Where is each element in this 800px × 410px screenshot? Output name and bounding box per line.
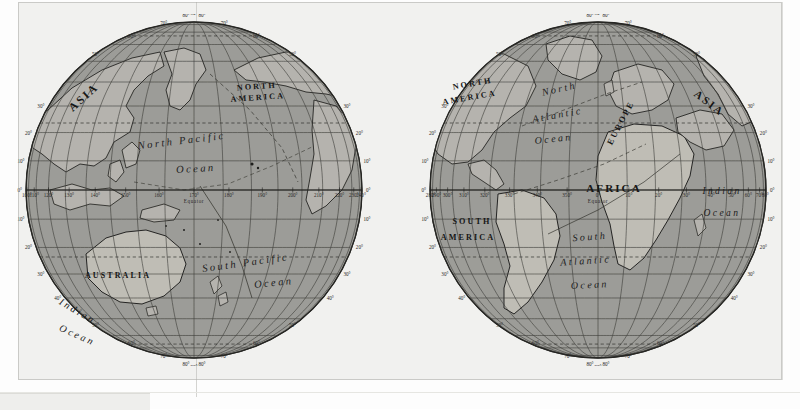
hemisphere-pacific[interactable]: ASIANORTHAMERICAAUSTRALIANorth PacificOc… xyxy=(14,14,374,366)
latitude-tick-right: 30° xyxy=(747,103,754,109)
longitude-tick: 240° xyxy=(356,192,366,198)
latitude-tick-right: 10° xyxy=(767,216,774,222)
polar-tick-top: 80° xyxy=(602,14,609,18)
polar-tick-bottom: 90° xyxy=(594,364,601,366)
longitude-tick: 20° xyxy=(655,192,662,198)
latitude-tick-right: 20° xyxy=(356,130,363,136)
polar-tick-top: 90° xyxy=(594,14,601,16)
latitude-tick-right: 10° xyxy=(363,216,370,222)
polar-tick-top: 80° xyxy=(182,14,189,18)
polar-tick-bottom: 80° xyxy=(586,361,593,366)
polar-tick-bottom: 60° xyxy=(532,340,539,346)
longitude-tick: 60° xyxy=(745,192,752,198)
polar-tick-bottom: 80° xyxy=(182,361,189,366)
latitude-tick-left: 0° xyxy=(421,187,426,193)
longitude-tick: 310° xyxy=(459,192,469,198)
latitude-tick-left: 0° xyxy=(17,187,22,193)
longitude-tick: 220° xyxy=(335,192,345,198)
polar-tick-bottom: 80° xyxy=(198,361,205,366)
latitude-tick-left: 30° xyxy=(441,271,448,277)
latitude-tick-left: 20° xyxy=(429,130,436,136)
polar-tick-bottom: 50° xyxy=(92,322,99,328)
polar-tick-bottom: 60° xyxy=(253,340,260,346)
latitude-tick-left: 30° xyxy=(37,271,44,277)
latitude-tick-right: 40° xyxy=(327,295,334,301)
longitude-tick: 10° xyxy=(625,192,632,198)
longitude-tick: 110° xyxy=(29,192,38,198)
island-dot xyxy=(229,251,231,253)
latitude-tick-left: 10° xyxy=(421,158,428,164)
longitude-tick: 80° xyxy=(762,192,769,198)
polar-tick-top: 70° xyxy=(221,20,228,26)
longitude-tick: 320° xyxy=(480,192,490,198)
latitude-tick-left: 20° xyxy=(25,244,32,250)
latitude-tick-left: 10° xyxy=(17,216,24,222)
polar-tick-top: 70° xyxy=(625,20,632,26)
polar-tick-top: 60° xyxy=(128,33,135,39)
continent-label: AUSTRALIA xyxy=(85,271,151,280)
polar-tick-bottom: 60° xyxy=(128,340,135,346)
latitude-tick-right: 20° xyxy=(356,244,363,250)
polar-tick-top: 60° xyxy=(532,33,539,39)
longitude-tick: 200° xyxy=(288,192,298,198)
longitude-tick: 40° xyxy=(708,192,715,198)
latitude-tick-left: 10° xyxy=(421,216,428,222)
island-dot xyxy=(183,229,185,231)
longitude-tick: 160° xyxy=(154,192,164,198)
longitude-tick: 30° xyxy=(683,192,690,198)
longitude-tick: 340° xyxy=(532,192,542,198)
paper-right-seam xyxy=(782,2,783,380)
latitude-tick-left: 10° xyxy=(17,158,24,164)
continent-label: AFRICA xyxy=(586,182,641,194)
latitude-tick-right: 20° xyxy=(760,130,767,136)
island-dot xyxy=(199,243,201,245)
longitude-tick: 290° xyxy=(432,192,442,198)
polar-tick-bottom: 70° xyxy=(221,353,228,359)
equator-label: Equator xyxy=(588,198,608,204)
ocean-label: Ocean xyxy=(176,162,216,175)
latitude-tick-left: 30° xyxy=(441,103,448,109)
polar-tick-top: 80° xyxy=(586,14,593,18)
longitude-tick: 130° xyxy=(64,192,74,198)
polar-tick-bottom: 70° xyxy=(564,353,571,359)
latitude-tick-right: 0° xyxy=(770,187,775,193)
polar-tick-top: 50° xyxy=(693,51,700,57)
latitude-tick-left: 40° xyxy=(54,295,61,301)
polar-tick-top: 70° xyxy=(160,20,167,26)
polar-tick-bottom: 50° xyxy=(289,322,296,328)
longitude-tick: 300° xyxy=(443,192,453,198)
latitude-tick-left: 20° xyxy=(429,244,436,250)
latitude-tick-right: 10° xyxy=(767,158,774,164)
continent-label: SOUTH xyxy=(452,217,491,226)
longitude-tick: 210° xyxy=(314,192,324,198)
continent-label: AMERICA xyxy=(441,233,496,242)
polar-tick-bottom: 80° xyxy=(602,361,609,366)
latitude-tick-right: 30° xyxy=(747,271,754,277)
ocean-label: Ocean xyxy=(571,278,610,291)
longitude-tick: 190° xyxy=(257,192,267,198)
polar-tick-top: 60° xyxy=(657,33,664,39)
polar-tick-top: 50° xyxy=(92,51,99,57)
polar-tick-top: 70° xyxy=(564,20,571,26)
hemisphere-atlantic[interactable]: NORTHAMERICASOUTHAMERICAEUROPEAFRICAASIA… xyxy=(418,14,778,366)
polar-tick-top: 80° xyxy=(198,14,205,18)
latitude-tick-left: 40° xyxy=(458,295,465,301)
latitude-tick-right: 20° xyxy=(760,244,767,250)
longitude-tick: 120° xyxy=(44,192,54,198)
polar-tick-top: 50° xyxy=(496,51,503,57)
polar-tick-bottom: 50° xyxy=(496,322,503,328)
latitude-tick-right: 0° xyxy=(366,187,371,193)
polar-tick-bottom: 50° xyxy=(693,322,700,328)
polar-tick-top: 60° xyxy=(253,33,260,39)
longitude-tick: 140° xyxy=(90,192,100,198)
equator-label: Equator xyxy=(184,198,204,204)
polar-tick-bottom: 70° xyxy=(160,353,167,359)
polar-tick-bottom: 60° xyxy=(657,340,664,346)
polar-tick-bottom: 70° xyxy=(625,353,632,359)
polar-tick-top: 90° xyxy=(190,14,197,16)
ocean-label: Ocean xyxy=(704,208,741,218)
polar-tick-top: 50° xyxy=(289,51,296,57)
landmass-tasmania xyxy=(146,306,158,316)
longitude-tick: 180° xyxy=(224,192,234,198)
